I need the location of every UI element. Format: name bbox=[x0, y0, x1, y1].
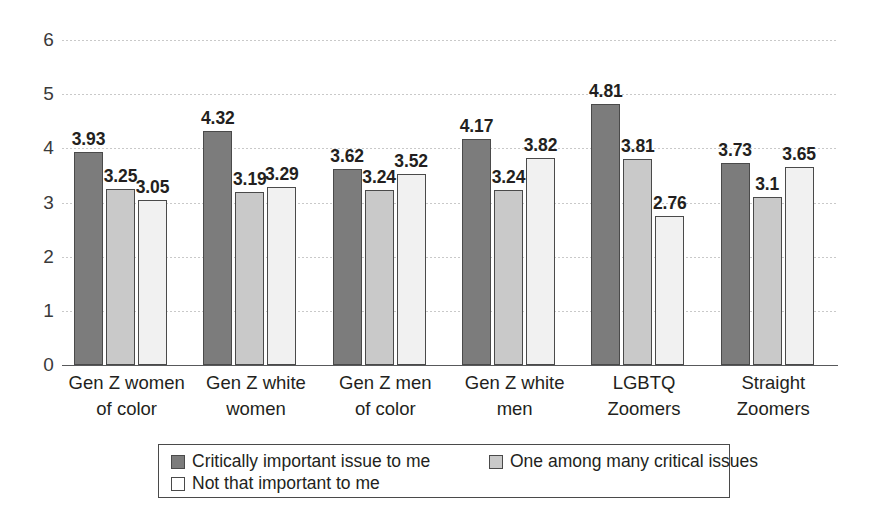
bar-group: 4.813.812.76 bbox=[579, 40, 708, 365]
y-tick-label: 4 bbox=[20, 137, 54, 159]
bar-group: 3.933.253.05 bbox=[62, 40, 191, 365]
legend-label: One among many critical issues bbox=[510, 451, 758, 472]
bar-value-label: 3.82 bbox=[517, 135, 564, 156]
bar-value-label: 4.81 bbox=[582, 81, 629, 102]
x-axis-category-labels: Gen Z womenof colorGen Z whitewomenGen Z… bbox=[62, 370, 838, 432]
bar-group: 4.173.243.82 bbox=[450, 40, 579, 365]
x-category-label-line: men bbox=[450, 396, 579, 422]
x-category-label-line: women bbox=[191, 396, 320, 422]
x-category-label: Gen Z whitewomen bbox=[191, 370, 320, 422]
bar-value-label: 3.1 bbox=[744, 174, 791, 195]
bar-value-label: 4.17 bbox=[453, 116, 500, 137]
bar bbox=[753, 197, 782, 365]
y-tick-label: 3 bbox=[20, 192, 54, 214]
bar bbox=[785, 167, 814, 365]
bar-value-label: 4.32 bbox=[194, 108, 241, 129]
bar-value-label: 3.81 bbox=[614, 136, 661, 157]
bar bbox=[203, 131, 232, 365]
bar-group: 3.623.243.52 bbox=[321, 40, 450, 365]
y-tick-label: 0 bbox=[20, 354, 54, 376]
x-category-label-line: Zoomers bbox=[579, 396, 708, 422]
legend-label: Critically important issue to me bbox=[192, 451, 430, 472]
bar bbox=[235, 192, 264, 365]
x-category-label-line: Gen Z white bbox=[206, 372, 306, 393]
bar-group: 4.323.193.29 bbox=[191, 40, 320, 365]
bar bbox=[623, 159, 652, 365]
bar bbox=[365, 190, 394, 366]
bar bbox=[397, 174, 426, 365]
bar bbox=[655, 216, 684, 366]
bar-value-label: 2.76 bbox=[646, 193, 693, 214]
x-category-label-line: LGBTQ bbox=[613, 372, 676, 393]
legend-swatch-icon bbox=[489, 455, 503, 469]
x-category-label-line: Gen Z men bbox=[339, 372, 432, 393]
legend-label: Not that important to me bbox=[192, 473, 380, 494]
bar-value-label: 3.05 bbox=[129, 177, 176, 198]
y-axis-tick-labels: 0123456 bbox=[14, 40, 54, 365]
x-category-label: StraightZoomers bbox=[709, 370, 838, 422]
legend-item: One among many critical issues bbox=[489, 451, 758, 472]
x-category-label: Gen Z menof color bbox=[321, 370, 450, 422]
bar bbox=[494, 190, 523, 366]
x-category-label: Gen Z womenof color bbox=[62, 370, 191, 422]
y-tick-label: 5 bbox=[20, 83, 54, 105]
chart-legend: Critically important issue to meNot that… bbox=[158, 444, 730, 498]
bar bbox=[106, 189, 135, 365]
x-category-label: Gen Z whitemen bbox=[450, 370, 579, 422]
axis-baseline bbox=[62, 365, 838, 366]
x-category-label-line: Zoomers bbox=[709, 396, 838, 422]
bar-value-label: 3.65 bbox=[776, 144, 823, 165]
y-tick-label: 1 bbox=[20, 300, 54, 322]
bar bbox=[333, 169, 362, 365]
bar-group: 3.733.13.65 bbox=[709, 40, 838, 365]
legend-swatch-icon bbox=[171, 455, 185, 469]
legend-item: Critically important issue to me bbox=[171, 451, 430, 472]
bar-value-label: 3.73 bbox=[712, 140, 759, 161]
bar bbox=[526, 158, 555, 365]
legend-swatch-icon bbox=[171, 477, 185, 491]
x-category-label: LGBTQZoomers bbox=[579, 370, 708, 422]
bar-value-label: 3.52 bbox=[388, 151, 435, 172]
bar-value-label: 3.62 bbox=[324, 146, 371, 167]
x-category-label-line: Straight bbox=[741, 372, 805, 393]
bar-chart: 0123456 3.933.253.054.323.193.293.623.24… bbox=[0, 0, 873, 530]
y-tick-label: 6 bbox=[20, 29, 54, 51]
legend-item: Not that important to me bbox=[171, 473, 380, 494]
x-category-label-line: of color bbox=[62, 396, 191, 422]
bar-value-label: 3.93 bbox=[65, 129, 112, 150]
x-category-label-line: Gen Z white bbox=[465, 372, 565, 393]
x-category-label-line: Gen Z women bbox=[69, 372, 185, 393]
y-tick-label: 2 bbox=[20, 246, 54, 268]
x-category-label-line: of color bbox=[321, 396, 450, 422]
bar-value-label: 3.29 bbox=[258, 164, 305, 185]
bar-value-label: 3.24 bbox=[485, 167, 532, 188]
plot-area: 3.933.253.054.323.193.293.623.243.524.17… bbox=[62, 40, 838, 365]
bar bbox=[138, 200, 167, 365]
bar bbox=[267, 187, 296, 365]
